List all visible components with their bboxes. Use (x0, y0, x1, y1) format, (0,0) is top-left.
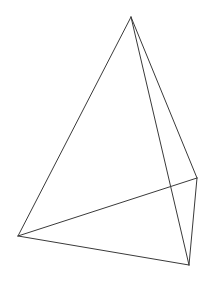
tetrahedron-svg (0, 0, 211, 283)
edge-apex-right-middle (131, 17, 197, 178)
edge-right-middle-bottom-right (189, 178, 197, 265)
edge-group (18, 17, 197, 265)
tetrahedron-figure-canvas (0, 0, 211, 283)
edge-left-bottom-right (18, 236, 189, 265)
edge-apex-bottom-right (131, 17, 189, 265)
edge-apex-left (18, 17, 131, 236)
edge-left-right-middle (18, 178, 197, 236)
